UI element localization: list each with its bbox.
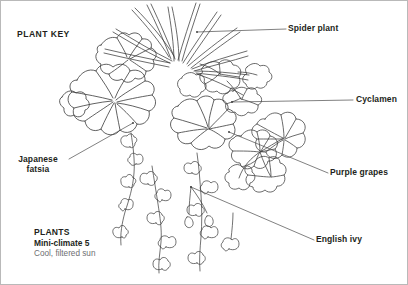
legend-subtitle: Mini-climate 5	[34, 238, 95, 249]
label-cyclamen: Cyclamen	[356, 94, 397, 104]
plant-key-diagram: PLANT KEY Spider plant Cyclamen Purple g…	[0, 0, 408, 285]
cyclamen-leaves	[178, 60, 272, 116]
label-english-ivy: English ivy	[316, 234, 362, 244]
label-spider-plant: Spider plant	[288, 23, 338, 33]
legend-title: PLANTS	[34, 227, 95, 238]
purple-grapes-leaves	[225, 112, 305, 192]
page-title: PLANT KEY	[17, 29, 70, 39]
label-japanese-fatsia: Japanese fatsia	[9, 154, 67, 174]
plants-legend: PLANTS Mini-climate 5 Cool, filtered sun	[34, 227, 95, 259]
english-ivy-trails	[113, 133, 239, 273]
legend-note: Cool, filtered sun	[34, 249, 95, 260]
leader-cyclamen	[232, 100, 353, 102]
leader-english-ivy	[191, 187, 314, 240]
leader-purple-grapes	[229, 132, 328, 173]
label-purple-grapes: Purple grapes	[330, 167, 388, 177]
